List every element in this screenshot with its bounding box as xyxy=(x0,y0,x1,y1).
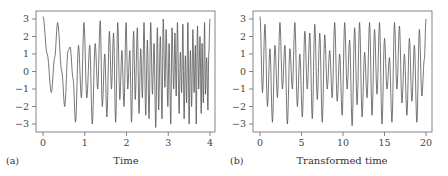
y-tick-label: 3 xyxy=(23,13,29,24)
panel-label-b: (b) xyxy=(230,155,244,166)
x-tick-label: 20 xyxy=(420,137,432,148)
y-tick-label: −3 xyxy=(15,118,29,129)
y-tick-label: 1 xyxy=(23,48,29,59)
y-tick-label: 2 xyxy=(240,31,246,42)
signal-line-b xyxy=(260,17,426,126)
figure: 3210−1−2−3 01234 (a) Time 3210−1−2−3 051… xyxy=(0,0,448,176)
y-tick-label: −3 xyxy=(232,118,246,129)
x-tick-label: 15 xyxy=(378,137,390,148)
y-axis-a: 3210−1−2−3 xyxy=(15,13,36,129)
x-tick-label: 4 xyxy=(207,137,213,148)
panel-label-a: (a) xyxy=(6,155,19,166)
x-tick-label: 0 xyxy=(40,137,46,148)
y-tick-label: 3 xyxy=(240,13,246,24)
x-axis-a: 01234 xyxy=(40,132,213,148)
x-tick-label: 1 xyxy=(82,137,88,148)
x-tick-label: 10 xyxy=(337,137,349,148)
x-axis-title-b: Transformed time xyxy=(296,155,387,166)
signal-line-a xyxy=(43,17,210,128)
x-tick-label: 3 xyxy=(165,137,171,148)
y-tick-label: −1 xyxy=(232,83,246,94)
x-tick-label: 2 xyxy=(123,137,129,148)
panel-a-time-plot: 3210−1−2−3 01234 (a) Time xyxy=(6,11,215,166)
y-tick-label: 2 xyxy=(23,31,29,42)
y-tick-label: 0 xyxy=(240,66,246,77)
y-tick-label: 1 xyxy=(240,48,246,59)
x-axis-title-a: Time xyxy=(113,155,138,166)
y-tick-label: −1 xyxy=(15,83,29,94)
panel-b-transformed-time-plot: 3210−1−2−3 05101520 (b) Transformed time xyxy=(230,11,432,166)
x-axis-b: 05101520 xyxy=(257,132,432,148)
y-tick-label: −2 xyxy=(232,101,246,112)
x-tick-label: 0 xyxy=(257,137,263,148)
y-axis-b: 3210−1−2−3 xyxy=(232,13,253,129)
y-tick-label: −2 xyxy=(15,101,29,112)
x-tick-label: 5 xyxy=(298,137,304,148)
y-tick-label: 0 xyxy=(23,66,29,77)
